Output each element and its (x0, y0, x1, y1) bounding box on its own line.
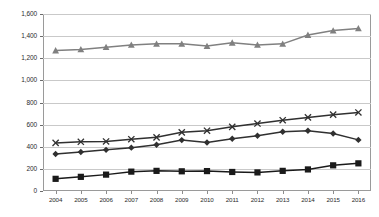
y-axis-tick-label: 1,200 (0, 54, 37, 61)
y-axis-tick-mark (40, 58, 43, 59)
y-axis-tick-label: 400 (0, 143, 37, 150)
y-axis-tick-mark (40, 191, 43, 192)
gridline (43, 169, 371, 170)
gridline (43, 14, 371, 15)
gridline (43, 58, 371, 59)
x-axis-tick-mark (308, 191, 309, 194)
x-axis-tick-mark (157, 191, 158, 194)
x-axis-tick-mark (131, 191, 132, 194)
x-axis-tick-mark (257, 191, 258, 194)
x-axis-tick-mark (106, 191, 107, 194)
y-axis-tick-mark (40, 36, 43, 37)
x-axis-tick-label: 2006 (92, 196, 120, 203)
x-axis-tick-label: 2012 (243, 196, 271, 203)
x-axis-tick-label: 2015 (319, 196, 347, 203)
y-axis-tick-label: 800 (0, 99, 37, 106)
x-axis-tick-label: 2005 (67, 196, 95, 203)
gridline (43, 103, 371, 104)
y-axis-tick-mark (40, 80, 43, 81)
x-axis-tick-label: 2008 (143, 196, 171, 203)
gridline (43, 147, 371, 148)
x-axis-tick-mark (182, 191, 183, 194)
x-axis-tick-label: 2009 (168, 196, 196, 203)
x-axis-tick-label: 2014 (294, 196, 322, 203)
gridline (43, 36, 371, 37)
x-axis-tick-mark (333, 191, 334, 194)
y-axis-tick-label: 1,000 (0, 76, 37, 83)
x-axis-tick-mark (283, 191, 284, 194)
y-axis-tick-mark (40, 125, 43, 126)
y-axis-tick-label: 600 (0, 121, 37, 128)
line-chart: 1,6001,4001,2001,00080060040020002004200… (0, 0, 379, 217)
gridline (43, 125, 371, 126)
x-axis-tick-mark (81, 191, 82, 194)
y-axis-tick-label: 1,600 (0, 10, 37, 17)
x-axis-tick-label: 2007 (117, 196, 145, 203)
y-axis-tick-label: 0 (0, 187, 37, 194)
x-axis-tick-label: 2004 (42, 196, 70, 203)
x-axis-tick-mark (207, 191, 208, 194)
x-axis-tick-mark (358, 191, 359, 194)
chart-legend (105, 209, 300, 217)
x-axis-tick-label: 2011 (218, 196, 246, 203)
y-axis-tick-mark (40, 169, 43, 170)
x-axis-tick-label: 2010 (193, 196, 221, 203)
y-axis-tick-mark (40, 147, 43, 148)
x-axis-tick-mark (232, 191, 233, 194)
y-axis-tick-label: 200 (0, 165, 37, 172)
y-axis-tick-label: 1,400 (0, 32, 37, 39)
x-axis-tick-mark (56, 191, 57, 194)
y-axis-tick-mark (40, 103, 43, 104)
x-axis-tick-label: 2016 (344, 196, 372, 203)
gridline (43, 80, 371, 81)
x-axis-tick-label: 2013 (269, 196, 297, 203)
y-axis-tick-mark (40, 14, 43, 15)
